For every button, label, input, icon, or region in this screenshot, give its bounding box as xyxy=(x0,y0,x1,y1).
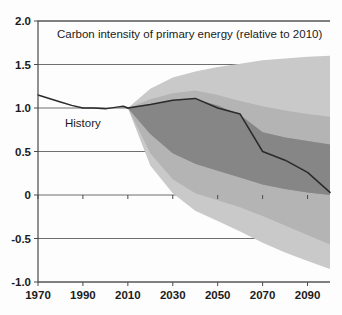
y-tick-label: 1.0 xyxy=(15,102,31,114)
x-tick-label: 1990 xyxy=(70,289,96,301)
y-tick-label: 0 xyxy=(25,189,31,201)
history-annotation: History xyxy=(65,117,101,129)
y-axis-labels: 2.01.51.00.50-0.5-1.0 xyxy=(11,15,31,288)
history-line xyxy=(38,95,128,109)
x-tick-label: 2090 xyxy=(295,289,321,301)
chart-svg: 2.01.51.00.50-0.5-1.0 197019902010203020… xyxy=(0,0,342,315)
x-tick-label: 2070 xyxy=(250,289,276,301)
x-axis-labels: 1970199020102030205020702090 xyxy=(25,289,320,301)
y-tick-label: -1.0 xyxy=(11,276,31,288)
chart-title: Carbon intensity of primary energy (rela… xyxy=(57,28,322,40)
chart-canvas: 2.01.51.00.50-0.5-1.0 197019902010203020… xyxy=(0,0,342,315)
x-tick-label: 1970 xyxy=(25,289,51,301)
x-tick-label: 2010 xyxy=(115,289,141,301)
y-tick-label: 2.0 xyxy=(15,15,31,27)
x-tick-label: 2030 xyxy=(160,289,186,301)
carbon-intensity-fan-chart: 2.01.51.00.50-0.5-1.0 197019902010203020… xyxy=(0,0,342,315)
uncertainty-bands xyxy=(128,56,330,269)
y-tick-label: -0.5 xyxy=(11,233,31,245)
x-tick-label: 2050 xyxy=(205,289,231,301)
y-tick-label: 1.5 xyxy=(15,59,32,71)
y-tick-label: 0.5 xyxy=(15,146,32,158)
